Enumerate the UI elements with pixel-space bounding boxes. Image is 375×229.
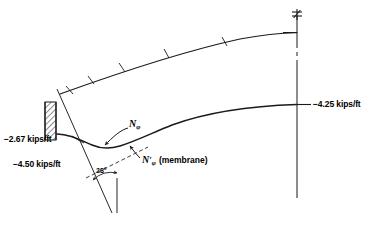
membrane-note: (membrane) bbox=[159, 155, 208, 165]
n-phi-label: Nφ bbox=[129, 119, 140, 131]
angle-label: 28° bbox=[96, 167, 107, 174]
n-phi-prime-leader-line bbox=[130, 146, 140, 158]
n-phi-prime-subscript: φ bbox=[152, 159, 156, 167]
n-phi-force-curve bbox=[57, 105, 297, 148]
meridian-tick-marks bbox=[66, 37, 227, 94]
edge-force-top-label: −2.67 kips/ft bbox=[4, 135, 52, 144]
n-phi-subscript: φ bbox=[136, 123, 140, 131]
tangent-construction-line bbox=[57, 89, 112, 213]
edge-force-bottom-label: −4.50 kips/ft bbox=[13, 160, 61, 169]
shell-force-diagram bbox=[0, 0, 375, 229]
n-phi-prime-label: N′φ(membrane) bbox=[142, 155, 208, 167]
shell-meridian-curve bbox=[60, 33, 297, 95]
centerline-symbol-icon bbox=[292, 9, 302, 20]
n-phi-leader-line bbox=[105, 128, 128, 145]
figure-root: −2.67 kips/ft −4.50 kips/ft −4.25 kips/f… bbox=[0, 0, 375, 229]
crown-force-label: −4.25 kips/ft bbox=[313, 100, 361, 109]
